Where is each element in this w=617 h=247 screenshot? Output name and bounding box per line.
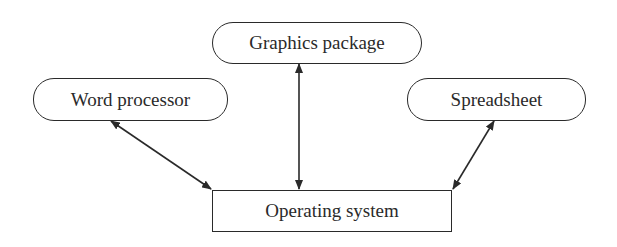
node-spreadsheet: Spreadsheet bbox=[407, 78, 586, 121]
node-label: Graphics package bbox=[249, 32, 385, 54]
node-label: Spreadsheet bbox=[451, 89, 543, 111]
arrow-word-processor-os bbox=[111, 121, 211, 189]
node-word-processor: Word processor bbox=[33, 78, 228, 121]
node-operating-system: Operating system bbox=[212, 190, 452, 232]
node-label: Word processor bbox=[71, 89, 190, 111]
node-label: Operating system bbox=[265, 200, 399, 222]
node-graphics-package: Graphics package bbox=[212, 22, 422, 64]
arrow-spreadsheet-os bbox=[453, 121, 494, 189]
